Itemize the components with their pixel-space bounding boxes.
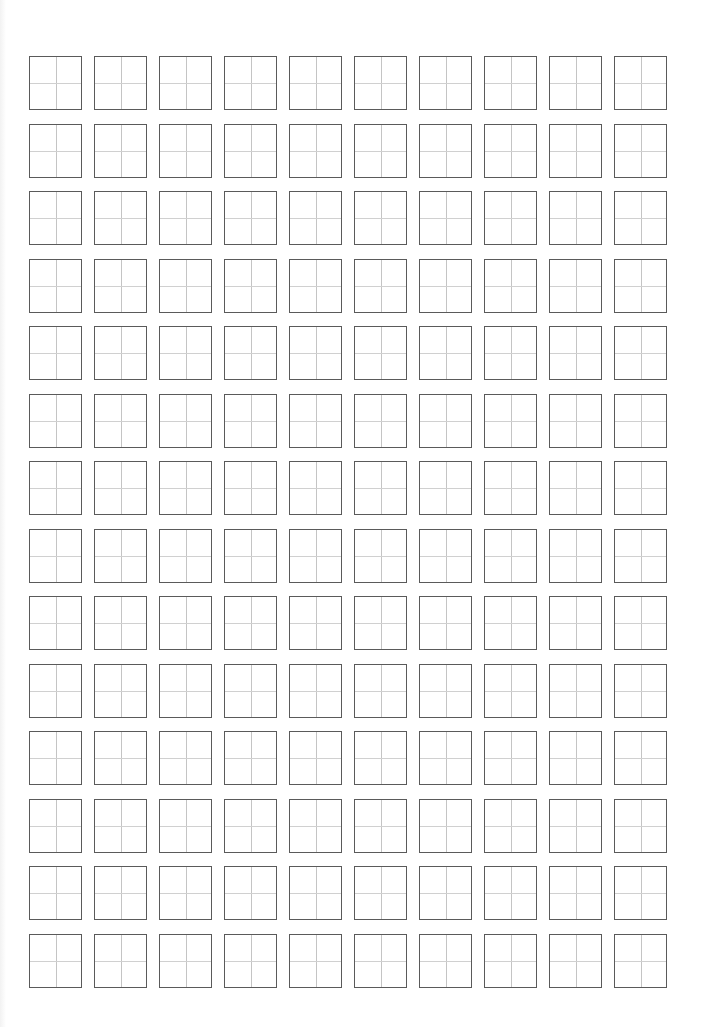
horizontal-guide-line bbox=[615, 421, 666, 422]
grid-cell bbox=[224, 799, 277, 853]
grid-cell bbox=[549, 529, 602, 583]
horizontal-guide-line bbox=[225, 826, 276, 827]
horizontal-guide-line bbox=[30, 151, 81, 152]
grid-cell bbox=[29, 799, 82, 853]
horizontal-guide-line bbox=[355, 421, 406, 422]
grid-cell bbox=[94, 191, 147, 245]
horizontal-guide-line bbox=[160, 893, 211, 894]
grid-cell bbox=[614, 934, 667, 988]
grid-cell bbox=[419, 394, 472, 448]
grid-cell bbox=[224, 326, 277, 380]
horizontal-guide-line bbox=[420, 893, 471, 894]
grid-cell bbox=[159, 259, 212, 313]
grid-cell bbox=[29, 731, 82, 785]
horizontal-guide-line bbox=[30, 218, 81, 219]
grid-cell bbox=[29, 56, 82, 110]
horizontal-guide-line bbox=[95, 893, 146, 894]
grid-cell bbox=[354, 461, 407, 515]
horizontal-guide-line bbox=[160, 758, 211, 759]
grid-cell bbox=[549, 596, 602, 650]
grid-cell bbox=[614, 259, 667, 313]
grid-cell bbox=[354, 56, 407, 110]
horizontal-guide-line bbox=[160, 556, 211, 557]
horizontal-guide-line bbox=[160, 488, 211, 489]
grid-cell bbox=[614, 596, 667, 650]
grid-cell bbox=[354, 326, 407, 380]
horizontal-guide-line bbox=[290, 758, 341, 759]
grid-cell bbox=[224, 529, 277, 583]
grid-cell bbox=[94, 664, 147, 718]
grid-cell bbox=[94, 866, 147, 920]
horizontal-guide-line bbox=[225, 758, 276, 759]
grid-cell bbox=[484, 664, 537, 718]
grid-cell bbox=[224, 124, 277, 178]
horizontal-guide-line bbox=[290, 961, 341, 962]
horizontal-guide-line bbox=[290, 353, 341, 354]
grid-cell bbox=[484, 596, 537, 650]
horizontal-guide-line bbox=[485, 421, 536, 422]
horizontal-guide-line bbox=[420, 353, 471, 354]
horizontal-guide-line bbox=[355, 218, 406, 219]
grid-cell bbox=[419, 56, 472, 110]
horizontal-guide-line bbox=[225, 83, 276, 84]
grid-cell bbox=[29, 326, 82, 380]
grid-cell bbox=[419, 866, 472, 920]
grid-cell bbox=[419, 529, 472, 583]
horizontal-guide-line bbox=[95, 488, 146, 489]
horizontal-guide-line bbox=[550, 623, 601, 624]
grid-cell bbox=[29, 461, 82, 515]
horizontal-guide-line bbox=[290, 151, 341, 152]
horizontal-guide-line bbox=[290, 623, 341, 624]
grid-cell bbox=[549, 866, 602, 920]
horizontal-guide-line bbox=[160, 421, 211, 422]
horizontal-guide-line bbox=[485, 218, 536, 219]
grid-cell bbox=[29, 664, 82, 718]
grid-cell bbox=[29, 259, 82, 313]
horizontal-guide-line bbox=[30, 961, 81, 962]
grid-cell bbox=[549, 56, 602, 110]
horizontal-guide-line bbox=[355, 758, 406, 759]
horizontal-guide-line bbox=[420, 488, 471, 489]
grid-cell bbox=[289, 529, 342, 583]
grid-cell bbox=[29, 866, 82, 920]
horizontal-guide-line bbox=[290, 286, 341, 287]
grid-cell bbox=[159, 866, 212, 920]
horizontal-guide-line bbox=[420, 421, 471, 422]
horizontal-guide-line bbox=[95, 286, 146, 287]
grid-cell bbox=[224, 191, 277, 245]
grid-cell bbox=[224, 866, 277, 920]
grid-cell bbox=[614, 326, 667, 380]
grid-cell bbox=[354, 866, 407, 920]
grid-cell bbox=[549, 731, 602, 785]
grid-cell bbox=[549, 259, 602, 313]
horizontal-guide-line bbox=[30, 893, 81, 894]
horizontal-guide-line bbox=[550, 421, 601, 422]
horizontal-guide-line bbox=[160, 623, 211, 624]
horizontal-guide-line bbox=[550, 758, 601, 759]
horizontal-guide-line bbox=[160, 691, 211, 692]
grid-cell bbox=[224, 664, 277, 718]
grid-cell bbox=[224, 731, 277, 785]
grid-cell bbox=[289, 866, 342, 920]
grid-cell bbox=[419, 259, 472, 313]
grid-cell bbox=[29, 124, 82, 178]
grid-cell bbox=[289, 461, 342, 515]
horizontal-guide-line bbox=[95, 556, 146, 557]
horizontal-guide-line bbox=[550, 151, 601, 152]
grid-cell bbox=[549, 461, 602, 515]
grid-cell bbox=[419, 326, 472, 380]
grid-cell bbox=[289, 934, 342, 988]
horizontal-guide-line bbox=[615, 151, 666, 152]
horizontal-guide-line bbox=[160, 151, 211, 152]
grid-cell bbox=[419, 191, 472, 245]
grid-cell bbox=[159, 596, 212, 650]
grid-cell bbox=[289, 191, 342, 245]
horizontal-guide-line bbox=[290, 826, 341, 827]
horizontal-guide-line bbox=[95, 421, 146, 422]
grid-cell bbox=[159, 461, 212, 515]
horizontal-guide-line bbox=[550, 826, 601, 827]
horizontal-guide-line bbox=[615, 488, 666, 489]
grid-cell bbox=[29, 394, 82, 448]
horizontal-guide-line bbox=[420, 691, 471, 692]
horizontal-guide-line bbox=[485, 353, 536, 354]
